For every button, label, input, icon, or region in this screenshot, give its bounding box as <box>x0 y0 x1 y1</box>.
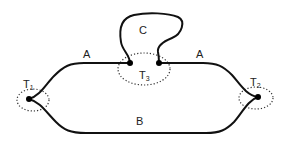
edge-b <box>29 97 258 133</box>
label-t1-sub: 1 <box>30 84 34 91</box>
edge-c-loop <box>120 13 182 63</box>
node-t1 <box>26 96 32 102</box>
label-t2: T2 <box>250 76 261 89</box>
label-t1: T1 <box>23 78 34 91</box>
terminal-graph-diagram: A A B C T1 T2 T3 <box>0 0 289 142</box>
label-edge-a-left: A <box>83 48 91 60</box>
label-edge-a-right: A <box>196 48 204 60</box>
edge-a-left <box>29 63 130 99</box>
label-t3: T3 <box>139 69 150 82</box>
node-t2 <box>255 94 261 100</box>
label-edge-c: C <box>139 24 147 36</box>
node-t3-right <box>156 60 162 66</box>
node-t3-left <box>127 60 133 66</box>
edge-a-right <box>159 63 258 97</box>
label-t3-sub: 3 <box>146 75 150 82</box>
label-edge-b: B <box>136 115 143 127</box>
label-t2-sub: 2 <box>257 82 261 89</box>
